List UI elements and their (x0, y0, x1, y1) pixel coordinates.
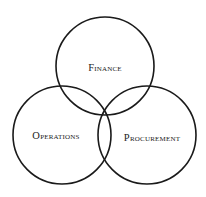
venn-diagram (0, 0, 206, 197)
operations-label: Operations (32, 131, 79, 142)
procurement-label: Procurement (124, 133, 180, 144)
finance-label: Finance (88, 63, 122, 74)
